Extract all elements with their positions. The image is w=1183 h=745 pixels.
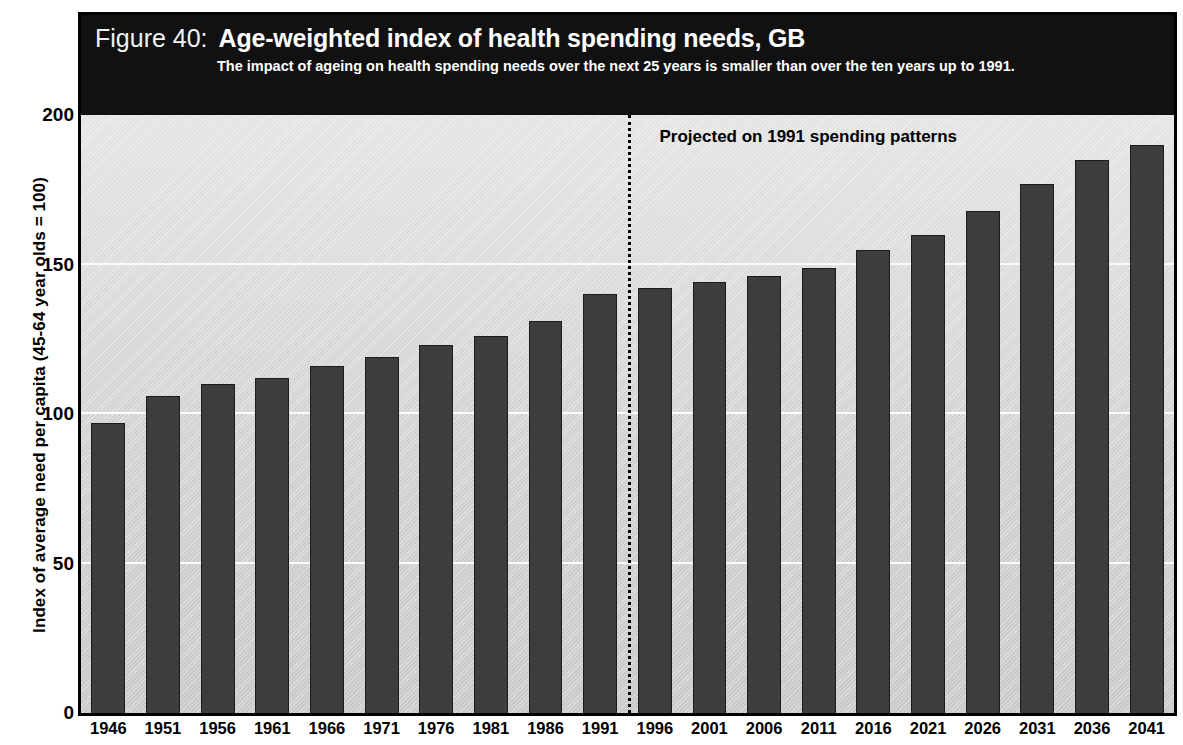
x-axis-tick-2016: 2016 [846,719,901,738]
bar-1981 [474,336,508,713]
page-title: Age-weighted index of health spending ne… [219,24,806,53]
y-axis-tick-labels: 050100150200 [0,0,74,745]
plot-area: Projected on 1991 spending patterns [81,115,1174,713]
y-axis-tick-150: 150 [14,255,74,274]
y-axis-tick-0: 0 [14,703,74,722]
projection-annotation: Projected on 1991 spending patterns [660,127,958,147]
title-row: Figure 40: Age-weighted index of health … [95,24,1160,53]
bar-1971 [365,357,399,713]
bar-1946 [91,423,125,713]
bar-1951 [146,396,180,713]
bar-1976 [419,345,453,713]
x-axis-tick-2026: 2026 [955,719,1010,738]
x-axis-tick-1951: 1951 [136,719,191,738]
bar-2011 [802,268,836,714]
x-axis-tick-labels: 1946195119561961196619711976198119861991… [81,719,1174,745]
x-axis-tick-1976: 1976 [409,719,464,738]
bar-1966 [310,366,344,713]
figure-number: Figure 40: [95,24,208,53]
x-axis-tick-2021: 2021 [901,719,956,738]
bar-2041 [1130,145,1164,713]
bar-2021 [911,235,945,713]
x-axis-tick-2036: 2036 [1065,719,1120,738]
x-axis-tick-1991: 1991 [573,719,628,738]
bar-1961 [255,378,289,713]
x-axis-tick-1986: 1986 [518,719,573,738]
x-axis-tick-2011: 2011 [791,719,846,738]
bar-2036 [1075,160,1109,713]
bar-1991 [583,294,617,713]
bar-2026 [966,211,1000,713]
y-axis-tick-200: 200 [14,105,74,124]
x-axis-tick-2006: 2006 [737,719,792,738]
x-axis-tick-1946: 1946 [81,719,136,738]
x-axis-tick-1956: 1956 [190,719,245,738]
x-axis-tick-1996: 1996 [628,719,683,738]
title-band: Figure 40: Age-weighted index of health … [81,15,1174,115]
figure-root: Index of average need per capita (45-64 … [0,0,1183,745]
bar-2031 [1020,184,1054,713]
subtitle: The impact of ageing on health spending … [217,57,1097,76]
x-axis-tick-2031: 2031 [1010,719,1065,738]
y-axis-tick-100: 100 [14,404,74,423]
bar-1996 [638,288,672,713]
bar-2001 [693,282,727,713]
x-axis-tick-1971: 1971 [354,719,409,738]
x-axis-tick-1961: 1961 [245,719,300,738]
y-axis-tick-50: 50 [14,554,74,573]
bar-2016 [856,250,890,713]
x-axis-tick-1981: 1981 [464,719,519,738]
x-axis-tick-2041: 2041 [1119,719,1174,738]
bar-2006 [747,276,781,713]
chart-frame: Figure 40: Age-weighted index of health … [78,12,1177,716]
x-axis-tick-1966: 1966 [300,719,355,738]
bar-1986 [529,321,563,713]
x-axis-tick-2001: 2001 [682,719,737,738]
projection-divider [628,115,631,713]
bar-1956 [201,384,235,713]
